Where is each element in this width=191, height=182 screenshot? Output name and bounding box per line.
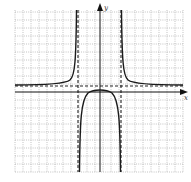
grid [15, 10, 183, 172]
x-axis-label: x [184, 94, 188, 102]
y-axis-label: y [103, 4, 109, 12]
left-branch [15, 10, 77, 85]
graph: x y [0, 0, 191, 182]
y-axis-arrow-icon [97, 3, 103, 11]
right-branch [122, 10, 184, 85]
